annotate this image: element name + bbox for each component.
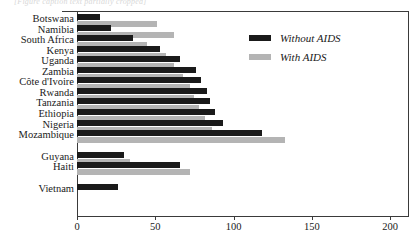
bar-without-aids bbox=[77, 46, 160, 52]
x-axis-tick-label: 50 bbox=[135, 221, 175, 233]
category-label: Rwanda bbox=[0, 87, 74, 98]
category-label: Côte d'Ivoire bbox=[0, 76, 74, 87]
category-label: Haiti bbox=[0, 161, 74, 172]
category-label: Mozambique bbox=[0, 129, 74, 140]
category-label: Nigeria bbox=[0, 119, 74, 130]
bar-without-aids bbox=[77, 35, 133, 41]
bar-without-aids bbox=[77, 130, 262, 136]
bar-group bbox=[77, 162, 390, 176]
bar-without-aids bbox=[77, 120, 223, 126]
bar-with-aids bbox=[77, 169, 190, 175]
bar-without-aids bbox=[77, 184, 118, 190]
category-label: Botswana bbox=[0, 13, 74, 24]
x-axis-tick-label: 100 bbox=[214, 221, 254, 233]
bar-group bbox=[77, 130, 390, 144]
bar-with-aids bbox=[77, 137, 285, 143]
category-label: Tanzania bbox=[0, 97, 74, 108]
bar-without-aids bbox=[77, 162, 180, 168]
bar-without-aids bbox=[77, 152, 124, 158]
bar-without-aids bbox=[77, 109, 215, 115]
bar-group bbox=[77, 184, 390, 198]
x-axis-tick-label: 200 bbox=[370, 221, 410, 233]
x-axis-tick bbox=[390, 216, 391, 220]
category-label: Uganda bbox=[0, 55, 74, 66]
bar-without-aids bbox=[77, 25, 111, 31]
category-label: Namibia bbox=[0, 24, 74, 35]
x-axis-tick bbox=[77, 216, 78, 220]
category-label: Vietnam bbox=[0, 183, 74, 194]
plot-area: BotswanaNamibiaSouth AfricaKenyaUgandaZa… bbox=[0, 0, 416, 249]
category-label: Guyana bbox=[0, 151, 74, 162]
bar-without-aids bbox=[77, 77, 201, 83]
bar-without-aids bbox=[77, 98, 210, 104]
legend-swatch-icon-without-aids bbox=[249, 35, 271, 41]
bar-without-aids bbox=[77, 56, 180, 62]
x-axis-tick bbox=[234, 216, 235, 220]
x-axis-tick-label: 0 bbox=[57, 221, 97, 233]
bar-without-aids bbox=[77, 88, 207, 94]
x-axis-tick bbox=[312, 216, 313, 220]
legend-label-with-aids: With AIDS bbox=[280, 50, 327, 65]
x-axis-tick-label: 150 bbox=[292, 221, 332, 233]
bar-without-aids bbox=[77, 14, 100, 20]
category-label: Ethiopia bbox=[0, 108, 74, 119]
bar-without-aids bbox=[77, 67, 196, 73]
category-label: Kenya bbox=[0, 45, 74, 56]
chart-root: [Figure caption text partially cropped] … bbox=[0, 0, 416, 249]
legend-swatch-icon-with-aids bbox=[249, 54, 271, 60]
category-label: Zambia bbox=[0, 66, 74, 77]
legend-label-without-aids: Without AIDS bbox=[280, 31, 341, 46]
category-label: South Africa bbox=[0, 34, 74, 45]
x-axis-tick bbox=[155, 216, 156, 220]
